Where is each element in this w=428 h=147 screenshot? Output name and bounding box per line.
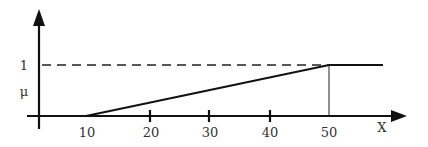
- x-tick-label-50: 50: [321, 125, 338, 140]
- y-axis-arrow-icon: [33, 9, 45, 26]
- x-tick-label-30: 30: [202, 125, 219, 140]
- x-tick-label-40: 40: [262, 125, 279, 140]
- x-axis-label: X: [377, 120, 387, 135]
- x-tick-label-10: 10: [79, 125, 96, 140]
- x-axis-arrow-icon: [391, 110, 407, 122]
- chart: 1 μ 10 20 30 40 50 X: [0, 0, 428, 147]
- y-axis-label: μ: [20, 84, 28, 99]
- membership-line: [86, 65, 383, 116]
- y-tick-label-1: 1: [20, 58, 28, 73]
- x-tick-label-20: 20: [143, 125, 160, 140]
